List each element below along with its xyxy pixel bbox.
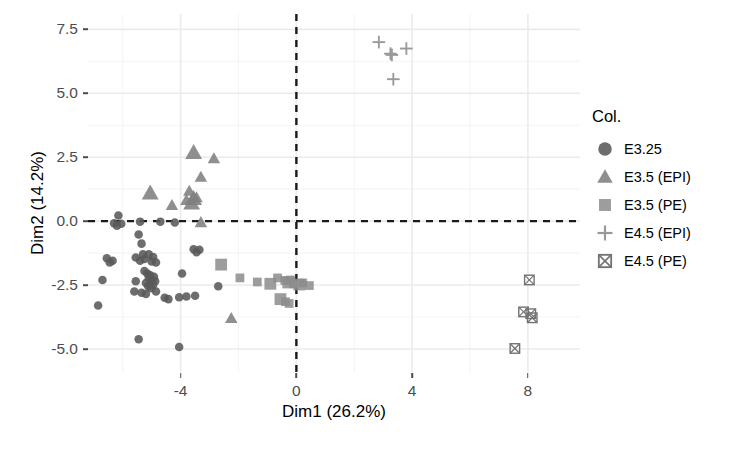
square-x-marker-icon	[592, 248, 618, 274]
legend-item-e4-5-pe[interactable]: E4.5 (PE)	[592, 247, 732, 275]
legend-item-label: E3.5 (EPI)	[624, 169, 691, 185]
triangle-marker-icon	[592, 164, 618, 190]
y-tick-mark	[83, 284, 88, 286]
x-tick-mark	[180, 373, 182, 378]
series-e3-5-pe-	[215, 259, 314, 308]
y-tick-mark	[83, 29, 88, 31]
x-tick-mark	[527, 373, 529, 378]
legend-item-label: E4.5 (PE)	[624, 253, 687, 269]
scatter-plot-figure: 7.55.02.50.0-2.5-5.0 -4048 Dim1 (26.2%) …	[0, 0, 738, 453]
legend-item-label: E4.5 (EPI)	[624, 225, 691, 241]
legend-item-label: E3.5 (PE)	[624, 197, 687, 213]
plus-marker-icon	[592, 220, 618, 246]
square-marker-icon	[592, 192, 618, 218]
x-tick-label: 0	[292, 382, 301, 400]
legend-item-e4-5-epi[interactable]: E4.5 (EPI)	[592, 219, 732, 247]
x-axis-title: Dim1 (26.2%)	[88, 402, 580, 422]
legend-item-e3-5-epi[interactable]: E3.5 (EPI)	[592, 163, 732, 191]
y-tick-label: 5.0	[20, 84, 78, 102]
y-axis-title: Dim2 (14.2%)	[28, 103, 48, 303]
legend-item-e3-5-pe[interactable]: E3.5 (PE)	[592, 191, 732, 219]
series-e3-25	[94, 211, 223, 351]
plot-panel	[88, 14, 580, 372]
legend-item-e3-25[interactable]: E3.25	[592, 135, 732, 163]
legend-title: Col.	[592, 108, 732, 125]
data-points-layer	[88, 14, 580, 372]
y-tick-mark	[83, 348, 88, 350]
x-tick-label: 8	[524, 382, 533, 400]
y-tick-mark	[83, 92, 88, 94]
x-tick-mark	[411, 373, 413, 378]
circle-marker-icon	[592, 136, 618, 162]
y-tick-label: -5.0	[20, 340, 78, 358]
y-tick-mark	[83, 220, 88, 222]
x-tick-mark	[296, 373, 298, 378]
legend-item-label: E3.25	[624, 141, 662, 157]
legend: Col. E3.25E3.5 (EPI)E3.5 (PE)E4.5 (EPI)E…	[592, 108, 732, 275]
series-e4-5-pe-	[510, 275, 537, 353]
x-tick-label: 4	[408, 382, 417, 400]
y-tick-label: 7.5	[20, 20, 78, 38]
x-tick-label: -4	[174, 382, 188, 400]
legend-items: E3.25E3.5 (EPI)E3.5 (PE)E4.5 (EPI)E4.5 (…	[592, 135, 732, 275]
series-e4-5-epi-	[373, 36, 413, 86]
y-tick-mark	[83, 156, 88, 158]
